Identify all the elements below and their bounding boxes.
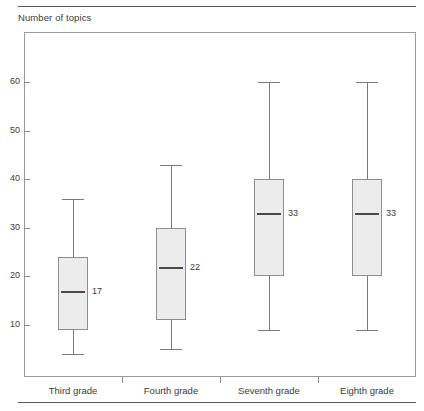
median-line (159, 267, 183, 269)
lower-whisker-line (269, 276, 270, 329)
lower-whisker-cap (258, 330, 280, 331)
y-axis-tick-label: 60 (0, 76, 20, 86)
y-axis-tick (24, 131, 30, 132)
upper-whisker-line (367, 82, 368, 179)
median-value-label: 33 (288, 208, 298, 218)
top-divider-rule (18, 6, 416, 7)
y-axis-title: Number of topics (18, 12, 91, 23)
upper-whisker-cap (356, 82, 378, 83)
y-axis-tick (24, 228, 30, 229)
median-line (257, 213, 281, 215)
interquartile-box (254, 179, 284, 276)
median-value-label: 33 (386, 208, 396, 218)
lower-whisker-cap (62, 354, 84, 355)
y-axis-tick-label: 10 (0, 319, 20, 329)
y-axis-tick (24, 179, 30, 180)
y-axis-tick (24, 325, 30, 326)
y-axis-tick-label: 50 (0, 125, 20, 135)
upper-whisker-cap (160, 165, 182, 166)
lower-whisker-line (73, 330, 74, 354)
upper-whisker-line (73, 199, 74, 257)
interquartile-box (156, 228, 186, 320)
y-axis-tick-label: 30 (0, 222, 20, 232)
box-plot-figure: Number of topics 102030405060Third grade… (0, 0, 424, 411)
x-axis-category-label: Fourth grade (144, 385, 198, 396)
median-value-label: 22 (190, 262, 200, 272)
lower-whisker-cap (356, 330, 378, 331)
bottom-divider-rule (18, 402, 416, 403)
x-axis-tick (318, 377, 319, 383)
x-axis-category-label: Third grade (49, 385, 98, 396)
x-axis-tick (220, 377, 221, 383)
x-axis-category-label: Eighth grade (340, 385, 394, 396)
interquartile-box (352, 179, 382, 276)
x-axis-tick (122, 377, 123, 383)
upper-whisker-cap (258, 82, 280, 83)
x-axis-category-label: Seventh grade (238, 385, 300, 396)
median-line (61, 291, 85, 293)
lower-whisker-line (171, 320, 172, 349)
upper-whisker-line (171, 165, 172, 228)
y-axis-tick (24, 82, 30, 83)
upper-whisker-cap (62, 199, 84, 200)
y-axis-tick (24, 276, 30, 277)
lower-whisker-line (367, 276, 368, 329)
interquartile-box (58, 257, 88, 330)
upper-whisker-line (269, 82, 270, 179)
y-axis-tick-label: 40 (0, 173, 20, 183)
lower-whisker-cap (160, 349, 182, 350)
median-line (355, 213, 379, 215)
median-value-label: 17 (92, 286, 102, 296)
y-axis-tick-label: 20 (0, 270, 20, 280)
